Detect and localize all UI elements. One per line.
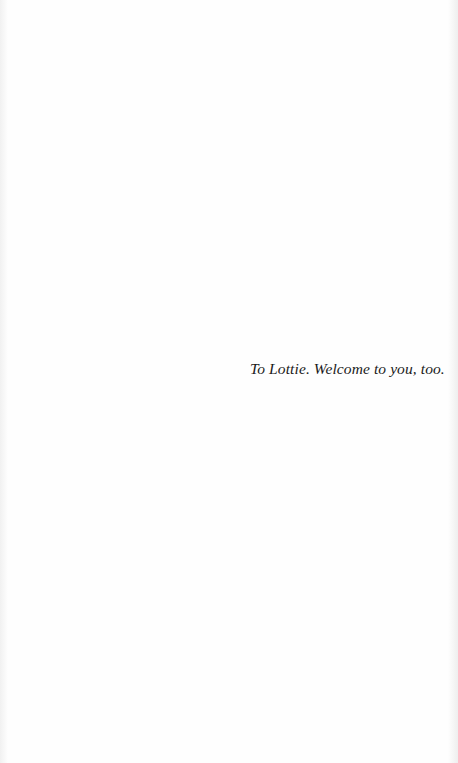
book-page: To Lottie. Welcome to you, too.: [0, 0, 458, 763]
dedication-text: To Lottie. Welcome to you, too.: [250, 360, 445, 378]
